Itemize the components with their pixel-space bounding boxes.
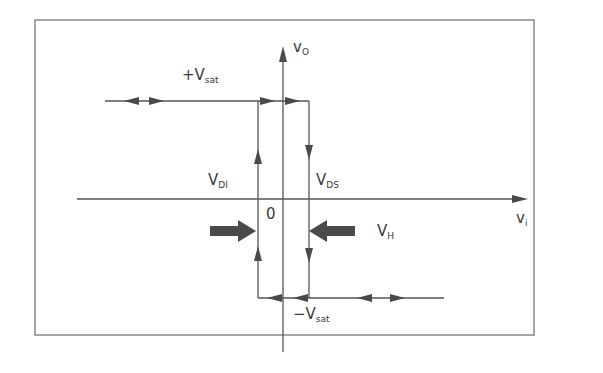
arrow-left-icon bbox=[124, 97, 139, 105]
negative-saturation-label: −Vsat bbox=[293, 307, 330, 324]
vo-axis-label: vO bbox=[293, 40, 309, 57]
arrow-right-icon bbox=[149, 97, 164, 105]
vi-axis-label: vi bbox=[516, 211, 527, 228]
hysteresis-width-arrow-left-icon bbox=[309, 220, 355, 242]
hysteresis-width-label: VH bbox=[377, 224, 394, 241]
arrow-up-icon bbox=[254, 246, 262, 261]
positive-saturation-label: +Vsat bbox=[182, 68, 219, 85]
hysteresis-width-arrow-right-icon bbox=[210, 220, 256, 242]
vi-axis-arrowhead-icon bbox=[512, 195, 528, 203]
arrow-right-icon bbox=[285, 97, 300, 105]
arrow-down-icon bbox=[305, 248, 313, 263]
arrow-left-icon bbox=[357, 294, 372, 302]
arrow-left-icon bbox=[267, 294, 282, 302]
vo-axis-arrowhead-icon bbox=[279, 46, 287, 62]
origin-label: 0 bbox=[266, 207, 276, 222]
arrow-up-icon bbox=[254, 149, 262, 164]
arrow-down-icon bbox=[305, 145, 313, 160]
diagram-frame bbox=[35, 20, 534, 335]
arrow-right-icon bbox=[260, 97, 275, 105]
lower-threshold-label: VDI bbox=[208, 173, 228, 190]
upper-threshold-label: VDS bbox=[316, 173, 339, 190]
arrow-left-icon bbox=[293, 294, 308, 302]
arrow-right-icon bbox=[390, 294, 405, 302]
